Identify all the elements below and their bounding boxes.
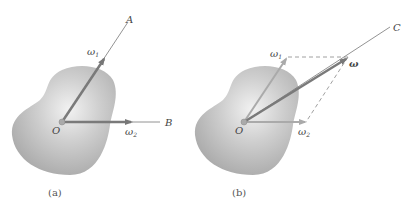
parallelogram-dash-right — [306, 57, 348, 122]
diagram-canvas: A B O ω1 ω2 (a) C O ω1 ω2 ω (b) — [0, 0, 406, 207]
omega2-label-a: ω2 — [125, 126, 137, 138]
origin-label-a: O — [52, 125, 60, 136]
caption-a: (a) — [48, 187, 62, 198]
omega1-label-a: ω1 — [87, 46, 99, 58]
origin-label-b: O — [235, 125, 243, 136]
caption-b: (b) — [232, 187, 246, 198]
omega-resultant-label: ω — [349, 58, 359, 69]
figure-b: C O ω1 ω2 ω (b) — [195, 22, 401, 198]
figure-a: A B O ω1 ω2 (a) — [12, 14, 172, 198]
omega1-label-b: ω1 — [270, 48, 282, 60]
axis-label-b: B — [164, 117, 172, 128]
axis-label-a: A — [125, 14, 133, 25]
axis-label-c: C — [393, 22, 401, 33]
omega2-label-b: ω2 — [298, 126, 310, 138]
